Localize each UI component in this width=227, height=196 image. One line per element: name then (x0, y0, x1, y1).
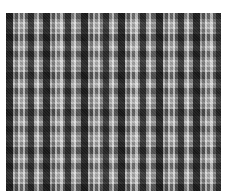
plaid-fabric-image (6, 13, 221, 191)
